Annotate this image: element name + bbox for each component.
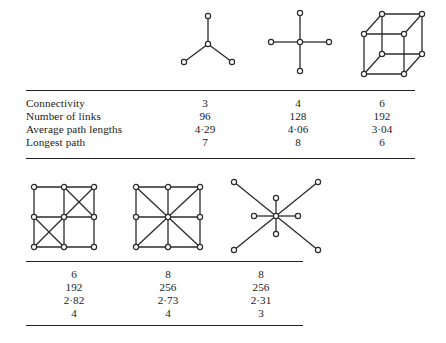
table-row: Average path lengths 4·29 4·06 3·04 xyxy=(0,123,446,136)
graph-node xyxy=(31,214,36,219)
cell-value: 2·82 xyxy=(64,294,85,307)
cell-value: 96 xyxy=(199,110,210,123)
cell-value: 4 xyxy=(71,307,77,320)
row-label-longest-path: Longest path xyxy=(26,136,85,149)
graph-node xyxy=(251,213,256,218)
grid-two-diagonals-graph xyxy=(28,181,100,253)
cell-value: 8 xyxy=(165,268,171,281)
graph-node xyxy=(379,11,384,16)
graph-node xyxy=(361,31,366,36)
cell-value: 8 xyxy=(295,136,301,149)
graph-node xyxy=(181,59,186,64)
grid-full-diagonals-graph xyxy=(130,181,206,253)
row-label-number-of-links: Number of links xyxy=(26,110,101,123)
cell-value: 4 xyxy=(295,97,301,110)
graph-node xyxy=(197,244,202,249)
cell-value: 4·06 xyxy=(288,123,309,136)
table-row: 192 256 256 xyxy=(0,281,446,294)
graph-node xyxy=(61,244,66,249)
eight-way-star-graph xyxy=(222,176,330,256)
table-row: 6 8 8 xyxy=(0,268,446,281)
cell-value: 2·73 xyxy=(158,294,179,307)
graph-node xyxy=(297,39,302,44)
graph-node xyxy=(205,13,210,18)
graph-node xyxy=(315,179,320,184)
cell-value: 4·29 xyxy=(195,123,216,136)
three-way-star-graph xyxy=(168,0,248,80)
cell-value: 6 xyxy=(71,268,77,281)
cell-value: 4 xyxy=(165,307,171,320)
graph-node xyxy=(133,214,138,219)
table-row: Longest path 7 8 6 xyxy=(0,136,446,149)
table-row: 4 4 3 xyxy=(0,307,446,320)
graph-node xyxy=(379,51,384,56)
graph-node xyxy=(268,39,273,44)
graph-node xyxy=(205,41,210,46)
graph-node xyxy=(91,184,96,189)
table-row: 2·82 2·73 2·31 xyxy=(0,294,446,307)
four-way-star-graph xyxy=(258,0,342,84)
graph-node xyxy=(91,244,96,249)
cell-value: 256 xyxy=(253,281,270,294)
row-label-average-path-lengths: Average path lengths xyxy=(26,123,122,136)
cell-value: 3 xyxy=(258,307,264,320)
cell-value: 6 xyxy=(379,136,385,149)
graph-node xyxy=(361,71,366,76)
cell-value: 192 xyxy=(66,281,83,294)
graph-node xyxy=(31,184,36,189)
graph-node xyxy=(326,39,331,44)
graph-node xyxy=(197,214,202,219)
graph-node xyxy=(197,184,202,189)
cell-value: 3·04 xyxy=(372,123,393,136)
bottom-table-rule-lower xyxy=(26,325,303,326)
cell-value: 3 xyxy=(202,97,208,110)
cell-value: 128 xyxy=(290,110,307,123)
cell-value: 2·31 xyxy=(251,294,272,307)
graph-node xyxy=(297,10,302,15)
graph-node xyxy=(61,184,66,189)
row-label-connectivity: Connectivity xyxy=(26,97,85,110)
graph-node xyxy=(273,213,278,218)
graph-node xyxy=(295,213,300,218)
graph-node xyxy=(133,244,138,249)
bottom-graph-row xyxy=(0,176,446,258)
graph-node xyxy=(419,51,424,56)
cell-value: 192 xyxy=(374,110,391,123)
graph-node xyxy=(231,179,236,184)
graph-node xyxy=(273,231,278,236)
figure-page: Connectivity 3 4 6 Number of links 96 12… xyxy=(0,0,446,343)
bottom-table-rule-upper xyxy=(26,261,303,262)
graph-node xyxy=(31,244,36,249)
graph-node xyxy=(231,247,236,252)
graph-node xyxy=(273,195,278,200)
cell-value: 8 xyxy=(258,268,264,281)
top-graph-row xyxy=(0,0,446,88)
graph-node xyxy=(133,184,138,189)
table-row: Number of links 96 128 192 xyxy=(0,110,446,123)
graph-node xyxy=(419,11,424,16)
graph-node xyxy=(91,214,96,219)
cell-value: 6 xyxy=(379,97,385,110)
graph-node xyxy=(315,247,320,252)
cube-graph xyxy=(356,6,432,82)
graph-node xyxy=(401,71,406,76)
graph-node xyxy=(165,214,170,219)
cell-value: 7 xyxy=(202,136,208,149)
cell-value: 256 xyxy=(160,281,177,294)
graph-node xyxy=(401,31,406,36)
graph-node xyxy=(297,68,302,73)
top-table-rule-upper xyxy=(26,90,415,91)
top-table-rule-lower xyxy=(26,158,415,159)
graph-node xyxy=(165,244,170,249)
graph-node xyxy=(61,214,66,219)
graph-node xyxy=(229,59,234,64)
graph-node xyxy=(165,184,170,189)
table-row: Connectivity 3 4 6 xyxy=(0,97,446,110)
